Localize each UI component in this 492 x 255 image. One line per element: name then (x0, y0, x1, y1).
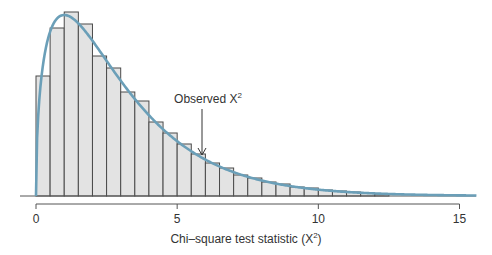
x-axis: 051015 (33, 204, 467, 226)
histogram-bar (107, 68, 121, 196)
x-tick-label: 5 (174, 212, 181, 226)
histogram-bar (163, 133, 177, 196)
x-tick-label: 10 (312, 212, 326, 226)
x-tick-label: 0 (33, 212, 40, 226)
histogram-bar (191, 154, 205, 196)
histogram-bar (78, 24, 92, 196)
chi-square-histogram: 051015 Chi–square test statistic (X2) Ob… (0, 0, 492, 255)
histogram-bar (92, 56, 106, 196)
x-tick-label: 15 (453, 212, 467, 226)
histogram-bar (234, 175, 248, 196)
x-axis-title: Chi–square test statistic (X2) (170, 231, 321, 246)
histogram-bar (121, 92, 135, 196)
histogram-bar (64, 12, 78, 196)
observed-label: Observed X2 (174, 91, 242, 106)
histogram-bar (205, 163, 219, 196)
histogram-bar (177, 144, 191, 196)
histogram-bar (149, 122, 163, 196)
histogram-bar (135, 101, 149, 196)
histogram-bar (50, 28, 64, 196)
